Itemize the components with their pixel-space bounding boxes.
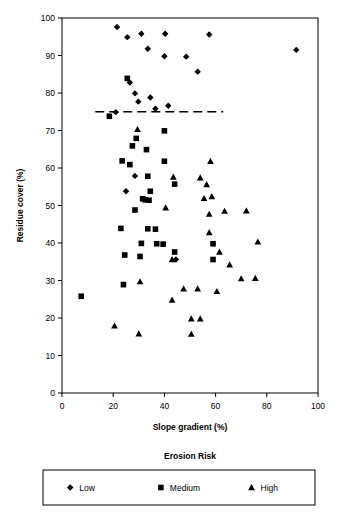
- data-point-diamond: [123, 188, 129, 194]
- x-tick-label: 80: [262, 401, 272, 411]
- data-point-triangle: [238, 275, 245, 281]
- data-point-square: [144, 147, 150, 153]
- data-point-square: [107, 113, 113, 119]
- data-point-triangle: [207, 158, 214, 164]
- y-tick-label: 30: [46, 276, 56, 286]
- data-point-triangle: [137, 278, 144, 284]
- data-point-square: [121, 282, 127, 288]
- data-point-triangle: [206, 211, 213, 217]
- data-point-diamond: [124, 34, 130, 40]
- data-point-diamond: [113, 109, 119, 115]
- data-point-diamond: [135, 98, 141, 104]
- data-point-diamond: [161, 53, 167, 59]
- data-point-square: [145, 226, 151, 232]
- data-point-square: [210, 241, 216, 247]
- data-point-triangle: [180, 285, 187, 291]
- data-point-square: [78, 293, 84, 299]
- data-point-square: [133, 136, 139, 142]
- x-tick-label: 100: [311, 401, 325, 411]
- data-point-triangle: [188, 315, 195, 321]
- y-tick-label: 20: [46, 313, 56, 323]
- data-point-square: [172, 249, 178, 255]
- data-point-square: [145, 173, 151, 179]
- data-point-diamond: [147, 94, 153, 100]
- data-point-square: [160, 241, 166, 247]
- data-point-triangle: [216, 249, 223, 255]
- legend-entry-label: Medium: [170, 483, 200, 493]
- data-point-triangle: [201, 195, 208, 201]
- x-axis-title: Slope gradient (%): [153, 422, 228, 432]
- data-point-triangle: [243, 207, 250, 213]
- data-point-triangle: [162, 204, 169, 210]
- data-point-square: [124, 76, 130, 82]
- data-point-square: [172, 181, 178, 187]
- data-point-diamond: [132, 173, 138, 179]
- data-point-triangle: [208, 193, 215, 199]
- data-point-square: [132, 207, 138, 213]
- data-point-diamond: [165, 103, 171, 109]
- data-point-triangle: [254, 238, 261, 244]
- data-point-triangle: [214, 288, 221, 294]
- y-tick-label: 40: [46, 238, 56, 248]
- data-point-triangle: [169, 297, 176, 303]
- data-point-square: [130, 143, 136, 149]
- y-tick-label: 10: [46, 351, 56, 361]
- x-tick-label: 0: [60, 401, 65, 411]
- data-point-triangle: [111, 322, 118, 328]
- data-point-diamond: [162, 31, 168, 37]
- x-tick-label: 20: [108, 401, 118, 411]
- y-tick-label: 90: [46, 51, 56, 61]
- data-point-square: [210, 257, 216, 263]
- x-tick-label: 40: [160, 401, 170, 411]
- series-medium: [78, 76, 215, 299]
- data-point-diamond: [138, 31, 144, 37]
- data-point-square: [154, 241, 160, 247]
- data-point-diamond: [194, 68, 200, 74]
- axes-group: 0102030405060708090100020406080100: [41, 13, 326, 411]
- series-low: [113, 24, 300, 263]
- legend-title: Erosion Risk: [164, 451, 216, 461]
- data-point-diamond: [114, 24, 120, 30]
- data-point-square: [127, 162, 133, 168]
- data-point-diamond: [145, 46, 151, 52]
- data-point-triangle: [194, 285, 201, 291]
- chart-svg: 0102030405060708090100020406080100 Resid…: [0, 0, 343, 514]
- data-point-diamond: [293, 47, 299, 53]
- y-axis-title: Residue cover (%): [15, 168, 25, 242]
- data-point-square: [162, 158, 168, 164]
- data-point-triangle: [188, 331, 195, 337]
- data-point-square: [118, 226, 124, 232]
- series-high: [111, 126, 261, 337]
- y-tick-label: 50: [46, 201, 56, 211]
- data-point-diamond: [132, 90, 138, 96]
- y-tick-label: 100: [41, 13, 55, 23]
- data-point-square: [153, 226, 159, 232]
- x-tick-label: 60: [211, 401, 221, 411]
- data-point-square: [139, 241, 145, 247]
- scatter-chart-figure: 0102030405060708090100020406080100 Resid…: [0, 0, 343, 514]
- data-point-triangle: [135, 330, 142, 336]
- legend-marker-square: [158, 485, 164, 491]
- data-point-square: [137, 254, 143, 260]
- y-tick-label: 0: [50, 388, 55, 398]
- data-point-triangle: [134, 126, 141, 132]
- data-point-diamond: [183, 53, 189, 59]
- legend-group: LowMediumHigh: [43, 470, 315, 505]
- data-point-triangle: [197, 174, 204, 180]
- data-point-triangle: [206, 229, 213, 235]
- data-point-square: [119, 158, 125, 164]
- data-point-triangle: [221, 208, 228, 214]
- legend-entry-label: Low: [79, 483, 95, 493]
- data-point-triangle: [197, 315, 204, 321]
- legend-entry-label: High: [261, 483, 279, 493]
- data-point-triangle: [170, 174, 177, 180]
- data-point-triangle: [226, 261, 233, 267]
- data-point-square: [148, 188, 154, 194]
- y-tick-label: 80: [46, 88, 56, 98]
- data-point-square: [162, 128, 168, 134]
- data-point-triangle: [203, 181, 210, 187]
- y-tick-label: 60: [46, 163, 56, 173]
- data-point-square: [146, 197, 152, 203]
- data-point-diamond: [206, 31, 212, 37]
- data-points-group: [78, 24, 299, 337]
